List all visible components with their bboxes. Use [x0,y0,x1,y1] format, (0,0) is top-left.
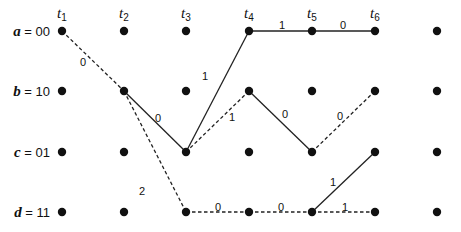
trellis-diagram: 0021101000011 a = 00b = 10c = 01d = 11 t… [0,0,461,232]
edge-metric-label: 0 [282,108,288,120]
node-a-t6 [371,27,379,35]
edge-metric-label: 0 [80,56,86,68]
edge-metric-label: 0 [340,19,346,31]
edge-b4-c5 [249,91,312,152]
node-a-t4 [245,27,253,35]
node-a-t3 [182,27,190,35]
edge-metric-label: 1 [342,201,348,213]
node-d-t1 [58,208,66,216]
edge-metric-label: 0 [155,112,161,124]
node-d-t4 [245,208,253,216]
state-code: 10 [36,84,50,99]
edge-c3-b4 [186,91,249,152]
edge-c3-a4 [186,31,249,152]
time-label-t3: t3 [181,5,191,23]
node-c-t5 [308,148,316,156]
nodes-layer [58,27,441,216]
node-c-t2 [120,148,128,156]
node-c-t6 [371,148,379,156]
node-a-t2 [120,27,128,35]
node-d-t7 [433,208,441,216]
edge-metric-label: 0 [337,110,343,122]
node-b-t5 [308,87,316,95]
node-d-t6 [371,208,379,216]
edges-layer [62,31,375,212]
node-c-t7 [433,148,441,156]
edge-metric-label: 1 [330,176,336,188]
node-c-t1 [58,148,66,156]
time-labels-layer: t1t2t3t4t5t6 [57,5,380,23]
edge-metric-label: 2 [139,185,145,197]
edge-metric-label: 1 [202,70,208,82]
time-label-t1: t1 [57,5,67,23]
node-a-t1 [58,27,66,35]
state-label-b: b = 10 [13,83,50,99]
node-d-t3 [182,208,190,216]
time-label-t5: t5 [307,5,317,23]
state-labels-layer: a = 00b = 10c = 01d = 11 [13,23,50,220]
state-label-a: a = 00 [13,23,50,39]
node-b-t2 [120,87,128,95]
node-a-t5 [308,27,316,35]
node-c-t4 [245,148,253,156]
edge-a1-b2 [62,31,124,91]
edge-metric-label: 1 [229,111,235,123]
node-b-t4 [245,87,253,95]
node-a-t7 [433,27,441,35]
state-code: 01 [36,145,50,160]
node-b-t6 [371,87,379,95]
node-d-t5 [308,208,316,216]
state-label-c: c = 01 [14,144,50,160]
node-b-t1 [58,87,66,95]
state-label-d: d = 11 [14,204,50,220]
time-label-t2: t2 [119,5,129,23]
time-label-t6: t6 [370,5,380,23]
state-code: 11 [37,205,51,220]
state-code: 00 [36,24,50,39]
time-label-t4: t4 [244,5,254,23]
edge-metric-label: 0 [215,201,221,213]
edge-labels-layer: 0021101000011 [80,19,348,213]
node-b-t3 [182,87,190,95]
edge-c5-b6 [312,91,375,152]
node-b-t7 [433,87,441,95]
node-c-t3 [182,148,190,156]
node-d-t2 [120,208,128,216]
edge-metric-label: 1 [279,19,285,31]
edge-b2-d3 [124,91,186,212]
edge-metric-label: 0 [278,201,284,213]
